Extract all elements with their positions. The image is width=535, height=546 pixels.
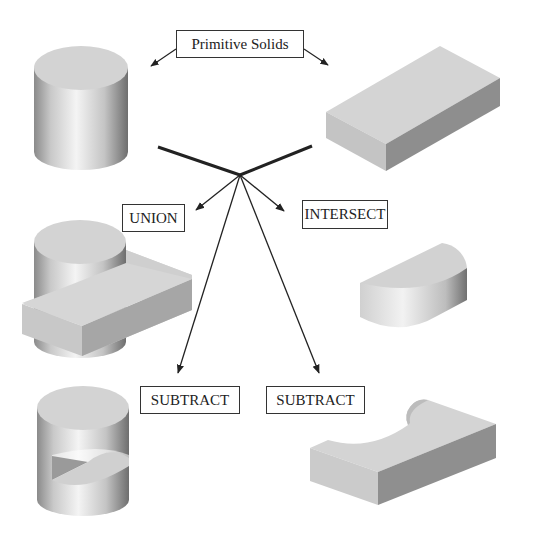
intersect-solid: [360, 243, 467, 327]
union-label: UNION: [122, 204, 185, 232]
arrow-to-cylinder: [151, 49, 176, 66]
subtract-left-solid: [37, 386, 129, 516]
v-line-left: [158, 147, 240, 175]
cylinder-solid: [34, 46, 128, 170]
subtract-right-label: SUBTRACT: [266, 386, 365, 414]
intersect-label: INTERSECT: [302, 200, 388, 229]
v-line-right: [240, 146, 312, 175]
csg-diagram: [0, 0, 535, 546]
arrow-to-union: [196, 175, 240, 210]
subtract-right-solid: [310, 400, 496, 505]
primitive-solids-label: Primitive Solids: [176, 30, 304, 58]
arrow-to-block: [304, 49, 328, 65]
union-solid: [22, 220, 192, 358]
block-solid: [326, 46, 500, 171]
subtract-left-label: SUBTRACT: [140, 386, 240, 414]
